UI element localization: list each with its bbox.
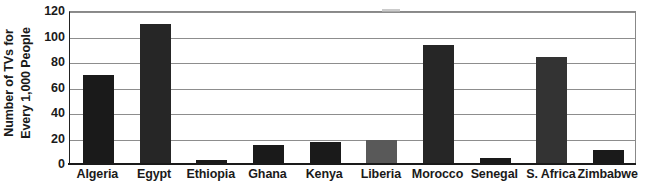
- bar-algeria: [83, 75, 114, 164]
- y-axis-title-line-2: Every 1,000 People: [18, 27, 35, 138]
- bar-s-africa: [536, 57, 567, 164]
- x-tick-label-zimbabwe: Zimbabwe: [577, 167, 637, 182]
- x-tick-label-s-africa: S. Africa: [526, 167, 575, 182]
- y-tick-label-80: 80: [51, 56, 65, 68]
- x-axis-line: [68, 163, 636, 165]
- bar-egypt: [140, 24, 171, 164]
- bar-chart: Number of TVs for Every 1,000 People 020…: [0, 0, 646, 190]
- y-axis-tick-labels: 020406080100120: [34, 0, 68, 170]
- y-tick-label-100: 100: [44, 31, 65, 43]
- x-tick-label-egypt: Egypt: [137, 167, 171, 182]
- x-tick-label-liberia: Liberia: [361, 167, 401, 182]
- y-axis-title-line-1: Number of TVs for: [1, 27, 18, 138]
- x-tick-label-senegal: Senegal: [471, 167, 518, 182]
- bar-kenya: [310, 142, 341, 164]
- x-tick-label-kenya: Kenya: [306, 167, 343, 182]
- bar-liberia: [366, 140, 397, 164]
- x-tick-label-morocco: Morocco: [412, 167, 463, 182]
- y-tick-label-0: 0: [58, 158, 65, 170]
- bars-layer: [70, 12, 635, 164]
- x-tick-label-ethiopia: Ethiopia: [186, 167, 235, 182]
- x-tick-label-ghana: Ghana: [248, 167, 286, 182]
- bar-ghana: [253, 145, 284, 164]
- scan-artifact-speck: [382, 9, 400, 12]
- y-tick-label-20: 20: [51, 133, 65, 145]
- y-tick-label-60: 60: [51, 82, 65, 94]
- bar-zimbabwe: [593, 150, 624, 164]
- x-tick-label-algeria: Algeria: [77, 167, 119, 182]
- y-tick-label-120: 120: [44, 5, 65, 17]
- y-tick-label-40: 40: [51, 107, 65, 119]
- bar-morocco: [423, 45, 454, 164]
- plot-area: [69, 11, 636, 164]
- x-axis-tick-labels: AlgeriaEgyptEthiopiaGhanaKenyaLiberiaMor…: [69, 167, 636, 189]
- y-axis-title: Number of TVs for Every 1,000 People: [0, 0, 36, 166]
